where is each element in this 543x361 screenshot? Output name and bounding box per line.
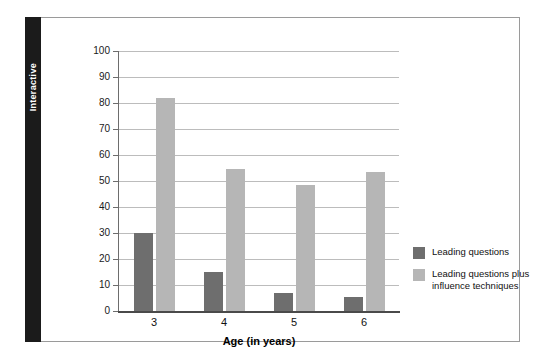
- y-tick-label: 20: [82, 254, 110, 264]
- legend-label: Leading questions: [432, 246, 509, 258]
- interactive-side-tab[interactable]: Interactive: [25, 17, 41, 342]
- bar: [296, 185, 315, 311]
- y-tick-label: 50: [82, 176, 110, 186]
- y-tick-mark: [113, 233, 118, 234]
- bar: [366, 172, 385, 311]
- legend-item: Leading questions: [413, 246, 538, 259]
- y-tick-mark: [113, 285, 118, 286]
- interactive-tab-label: Interactive: [28, 63, 38, 111]
- y-tick-label: 80: [82, 98, 110, 108]
- y-tick-label: 70: [82, 124, 110, 134]
- gridline: [119, 51, 399, 52]
- bar: [156, 98, 175, 311]
- y-tick-mark: [113, 181, 118, 182]
- y-tick-label: 10: [82, 280, 110, 290]
- y-tick-label: 40: [82, 202, 110, 212]
- y-tick-mark: [113, 207, 118, 208]
- y-axis-line: [118, 51, 119, 312]
- y-tick-mark: [113, 77, 118, 78]
- bar: [134, 233, 153, 311]
- legend-swatch: [413, 269, 425, 281]
- y-tick-mark: [113, 155, 118, 156]
- gridline: [119, 77, 399, 78]
- bar: [204, 272, 223, 311]
- plot-area: [119, 51, 399, 311]
- x-tick-label: 6: [344, 316, 384, 328]
- y-tick-mark: [113, 51, 118, 52]
- y-tick-mark: [113, 103, 118, 104]
- y-axis-tick-labels: 0102030405060708090100: [78, 18, 110, 361]
- x-tick-label: 4: [204, 316, 244, 328]
- y-tick-mark: [113, 311, 118, 312]
- y-tick-label: 90: [82, 72, 110, 82]
- x-axis-line: [118, 311, 400, 313]
- chart-figure-frame: 0102030405060708090100 Mean percent yes …: [25, 17, 520, 342]
- y-tick-mark: [113, 129, 118, 130]
- legend-label: Leading questions plus influence techniq…: [432, 268, 538, 292]
- y-tick-mark: [113, 259, 118, 260]
- chart-legend: Leading questionsLeading questions plus …: [413, 246, 538, 301]
- y-tick-label: 60: [82, 150, 110, 160]
- bar: [226, 169, 245, 311]
- legend-item: Leading questions plus influence techniq…: [413, 268, 538, 292]
- y-tick-label: 100: [82, 46, 110, 56]
- bar: [344, 297, 363, 311]
- x-tick-label: 3: [134, 316, 174, 328]
- bar: [274, 293, 293, 311]
- y-tick-label: 0: [82, 306, 110, 316]
- y-tick-label: 30: [82, 228, 110, 238]
- legend-swatch: [413, 247, 425, 259]
- x-axis-title: Age (in years): [119, 335, 399, 347]
- x-tick-label: 5: [274, 316, 314, 328]
